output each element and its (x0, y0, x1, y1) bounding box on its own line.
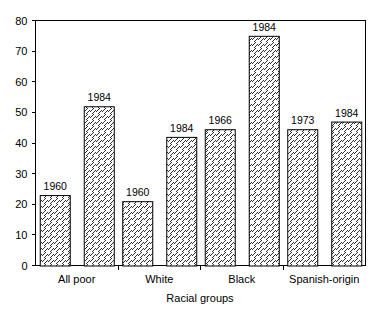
bar (332, 122, 362, 266)
bar-label: 1984 (335, 107, 359, 119)
x-category-label: Black (228, 273, 255, 285)
y-tick-label: 80 (15, 15, 27, 27)
y-tick-label: 0 (21, 260, 27, 272)
x-axis-category-labels: All poorWhiteBlackSpanish-origin (58, 273, 359, 285)
bar-label: 1984 (170, 122, 194, 134)
x-category-label: Spanish-origin (289, 273, 359, 285)
bar-chart: 01020304050607080 1960198419601984196619… (0, 0, 381, 309)
bar (40, 196, 70, 266)
x-category-label: White (145, 273, 173, 285)
x-axis-title: Racial groups (166, 292, 234, 304)
x-category-label: All poor (58, 273, 96, 285)
y-tick-label: 10 (15, 229, 27, 241)
chart-canvas: 01020304050607080 1960198419601984196619… (0, 0, 381, 309)
y-tick-label: 20 (15, 198, 27, 210)
y-tick-label: 60 (15, 76, 27, 88)
bar (123, 202, 153, 266)
bar (167, 137, 197, 266)
bar-label: 1960 (126, 186, 150, 198)
y-tick-label: 30 (15, 168, 27, 180)
bar-label: 1984 (253, 21, 277, 33)
bar (249, 36, 279, 266)
bar-label: 1984 (88, 91, 112, 103)
bar-label: 1973 (291, 114, 315, 126)
y-tick-label: 40 (15, 137, 27, 149)
bars-group (40, 36, 362, 266)
bar-label: 1960 (44, 180, 68, 192)
bar (288, 130, 318, 266)
bar-label: 1966 (209, 114, 233, 126)
bar (205, 130, 235, 266)
bar (84, 107, 114, 266)
y-axis-ticks: 01020304050607080 (15, 15, 35, 272)
y-tick-label: 50 (15, 106, 27, 118)
y-tick-label: 70 (15, 45, 27, 57)
